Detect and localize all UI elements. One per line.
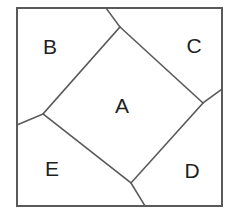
region-label-c: C	[186, 34, 201, 57]
region-label-e: E	[45, 157, 59, 180]
region-label-d: D	[184, 159, 199, 182]
region-label-b: B	[43, 35, 57, 58]
region-label-a: A	[115, 94, 129, 117]
diagram-canvas: A B C D E	[0, 0, 238, 217]
geometry-figure: A B C D E	[0, 0, 238, 217]
